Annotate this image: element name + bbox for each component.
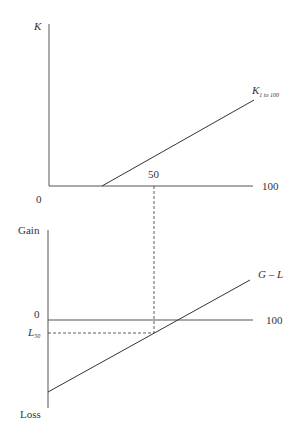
k-curve-label: K1 to 100 [251,84,279,98]
loss-label: Loss [20,408,41,420]
x-tick-50: 50 [148,168,160,180]
g-minus-l-label: G – L [258,268,283,280]
l50-label: L50 [27,326,40,339]
origin-label: 0 [36,193,42,205]
bottom-x-tick-100: 100 [266,314,283,326]
diagram-canvas: K 0 50 100 K1 to 100 Gain Loss 0 L50 100… [0,0,296,432]
bottom-panel: Gain Loss 0 L50 100 G – L [18,224,283,420]
zero-label: 0 [34,308,40,320]
gain-label: Gain [18,224,40,236]
g-minus-l-line [48,280,250,392]
k-line [102,100,254,186]
top-x-tick-100: 100 [262,180,279,192]
top-panel: K 0 50 100 K1 to 100 [33,20,279,205]
k-axis-label: K [33,20,42,32]
